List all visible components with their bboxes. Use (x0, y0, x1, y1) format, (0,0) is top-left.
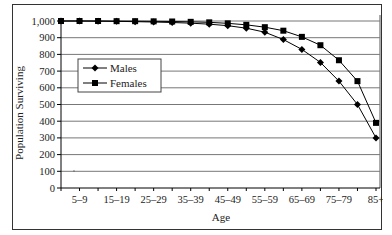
y-tick-label: 0 (50, 183, 55, 194)
line-chart: 01002003004005006007008009001,000 5–915–… (13, 5, 383, 231)
diamond-marker-icon (280, 36, 287, 43)
gridlines (61, 15, 380, 188)
square-marker-icon (77, 18, 83, 24)
x-tick-label: 5–9 (72, 194, 88, 205)
square-marker-icon (169, 19, 175, 25)
square-marker-icon (95, 18, 101, 24)
diamond-marker-icon (373, 134, 380, 141)
square-marker-icon (225, 20, 231, 26)
square-marker-icon (58, 18, 64, 24)
square-marker-icon (354, 78, 360, 84)
y-axis-title: Population Surviving (13, 66, 25, 160)
y-tick-label: 200 (39, 149, 55, 160)
y-tick-label: 400 (39, 116, 55, 127)
legend: Males Females (78, 59, 161, 92)
square-marker-icon (114, 18, 120, 24)
x-tick-label: 85+ (368, 194, 383, 205)
square-marker-icon (299, 34, 305, 40)
diamond-marker-icon (298, 46, 305, 53)
chart-frame: 01002003004005006007008009001,000 5–915–… (12, 4, 382, 230)
legend-label-males: Males (110, 62, 137, 74)
y-tick-label: 100 (39, 166, 55, 177)
square-marker-icon (206, 19, 212, 25)
y-tick-label: 500 (39, 99, 55, 110)
square-marker-icon (92, 80, 98, 86)
x-axis-title: Age (212, 211, 230, 223)
square-marker-icon (336, 57, 342, 63)
square-marker-icon (373, 120, 379, 126)
y-tick-label: 800 (39, 49, 55, 60)
legend-label-females: Females (110, 77, 147, 89)
y-tick-label: 700 (39, 66, 55, 77)
x-tick-label: 25–29 (141, 194, 167, 205)
x-tick-label: 75–79 (326, 194, 352, 205)
square-marker-icon (132, 18, 138, 24)
x-tick-label: 65–69 (289, 194, 315, 205)
x-axis: 5–915–1925–2935–3945–4955–5965–6975–7985… (61, 188, 383, 205)
square-marker-icon (243, 22, 249, 28)
x-tick-label: 15–19 (103, 194, 129, 205)
square-marker-icon (262, 24, 268, 30)
x-tick-label: 45–49 (215, 194, 241, 205)
square-marker-icon (188, 19, 194, 25)
y-axis: 01002003004005006007008009001,000 (31, 16, 61, 194)
y-tick-label: 900 (39, 32, 55, 43)
y-tick-label: 1,000 (31, 16, 55, 27)
y-tick-label: 300 (39, 132, 55, 143)
y-tick-label: 600 (39, 82, 55, 93)
x-tick-label: 55–59 (252, 194, 278, 205)
square-marker-icon (151, 18, 157, 24)
square-marker-icon (317, 42, 323, 48)
square-marker-icon (280, 28, 286, 34)
x-tick-label: 35–39 (178, 194, 204, 205)
stray-dot (73, 170, 74, 171)
